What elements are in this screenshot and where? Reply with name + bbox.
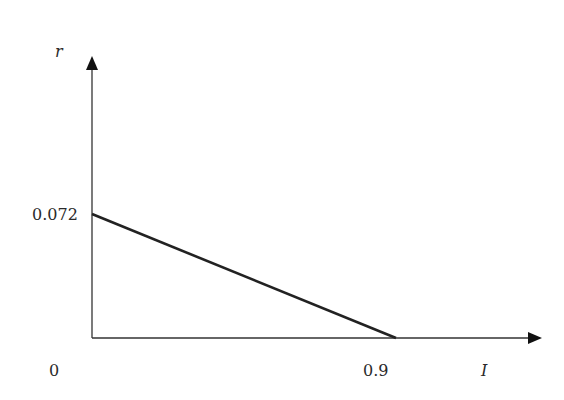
x-axis-arrow-icon [528, 332, 542, 344]
y-axis-arrow-icon [86, 56, 98, 70]
x-axis-label: I [480, 361, 488, 380]
chart: r 0.072 0 0.9 I [0, 0, 564, 400]
data-line [92, 214, 396, 338]
y-axis-label: r [55, 42, 64, 61]
x-tick-label: 0.9 [363, 361, 388, 380]
origin-label: 0 [49, 361, 59, 380]
y-tick-label: 0.072 [32, 205, 78, 224]
